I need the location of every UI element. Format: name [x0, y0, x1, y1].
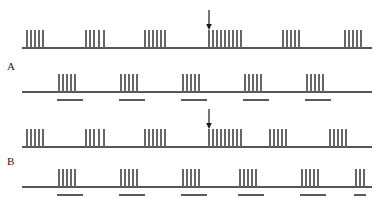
spike-burst	[307, 74, 323, 92]
spike-burst	[283, 30, 299, 48]
spike-burst	[183, 169, 199, 187]
spike-burst	[121, 169, 137, 187]
panel-b	[22, 109, 372, 195]
spike-burst	[330, 129, 346, 147]
neuron-trace-a-upper	[22, 10, 372, 48]
panel-label-b: B	[7, 156, 14, 167]
spike-burst	[121, 74, 137, 92]
spike-burst	[270, 129, 286, 147]
spike-burst	[356, 169, 364, 187]
spike-burst	[145, 30, 165, 48]
spike-burst	[209, 129, 241, 147]
spike-burst	[183, 74, 199, 92]
stimulus-arrow-icon	[206, 10, 212, 30]
spike-burst	[240, 169, 256, 187]
spike-burst	[302, 169, 318, 187]
spike-burst	[245, 74, 261, 92]
spike-burst	[27, 129, 43, 147]
spike-burst	[27, 30, 43, 48]
arrow-head	[206, 24, 212, 30]
panel-a	[22, 10, 372, 100]
neuron-trace-a-lower	[22, 74, 372, 100]
spike-burst	[86, 30, 104, 48]
figure-root: A B	[0, 0, 379, 198]
spike-burst	[209, 30, 241, 48]
stimulus-arrow-icon	[206, 109, 212, 129]
neuron-trace-b-upper	[22, 109, 372, 147]
panel-label-a: A	[7, 61, 15, 72]
neuron-trace-b-lower	[22, 169, 372, 195]
spike-burst	[345, 30, 361, 48]
spike-train-figure	[0, 0, 379, 198]
spike-burst	[86, 129, 104, 147]
traces-layer	[22, 10, 372, 195]
arrow-head	[206, 123, 212, 129]
spike-burst	[59, 74, 75, 92]
spike-burst	[145, 129, 165, 147]
spike-burst	[59, 169, 75, 187]
